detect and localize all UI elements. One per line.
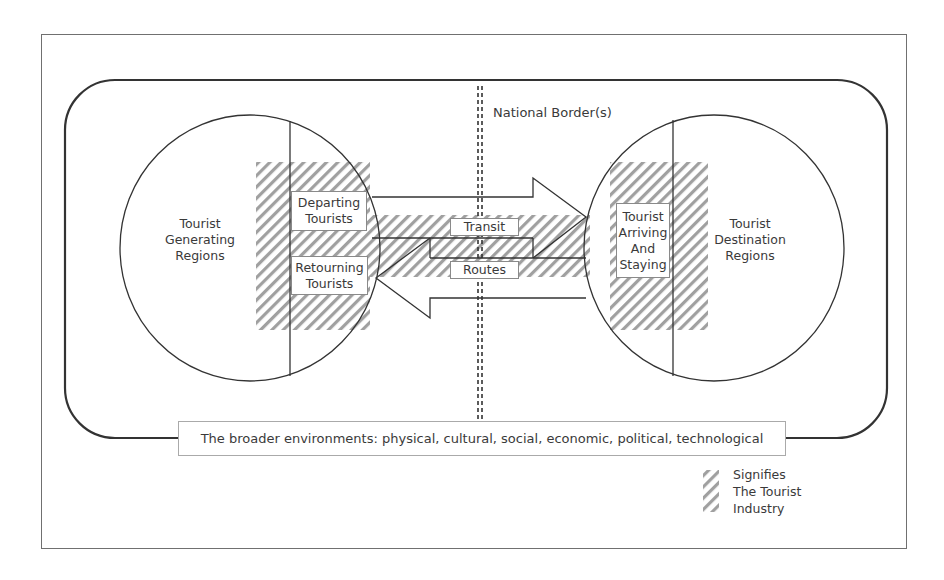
departing-line: Departing [298, 195, 360, 211]
destination-label-line: Destination [705, 232, 795, 248]
routes-box: Routes [450, 261, 519, 279]
arriving-line: Staying [619, 257, 666, 273]
destination-label-line: Tourist [705, 216, 795, 232]
legend-line: Industry [733, 500, 801, 517]
returning-line: Retourning [295, 260, 363, 276]
legend-line: The Tourist [733, 483, 801, 500]
transit-box: Transit [450, 218, 519, 236]
legend-line: Signifies [733, 466, 801, 483]
destination-region-label: Tourist Destination Regions [705, 216, 795, 264]
departing-tourists-box: Departing Tourists [291, 191, 367, 231]
generating-label-line: Tourist [150, 216, 250, 232]
returning-tourists-box: Retourning Tourists [291, 256, 368, 295]
national-border-label: National Border(s) [493, 105, 612, 120]
broader-environment-box: The broader environments: physical, cult… [178, 421, 786, 456]
left-industry-hatch [256, 162, 370, 330]
routes-label: Routes [463, 262, 506, 278]
generating-label-line: Regions [150, 248, 250, 264]
legend-label: Signifies The Tourist Industry [733, 466, 801, 517]
generating-label-line: Generating [150, 232, 250, 248]
arriving-line: Arriving [619, 225, 668, 241]
departing-line: Tourists [305, 211, 353, 227]
arriving-line: Tourist [622, 209, 663, 225]
destination-label-line: Regions [705, 248, 795, 264]
legend-hatch-swatch [703, 470, 719, 512]
transit-label: Transit [464, 219, 505, 235]
arriving-line: And [631, 241, 655, 257]
generating-region-label: Tourist Generating Regions [150, 216, 250, 264]
returning-line: Tourists [306, 276, 354, 292]
tourism-system-diagram [0, 0, 944, 580]
arriving-staying-box: Tourist Arriving And Staying [616, 203, 670, 278]
